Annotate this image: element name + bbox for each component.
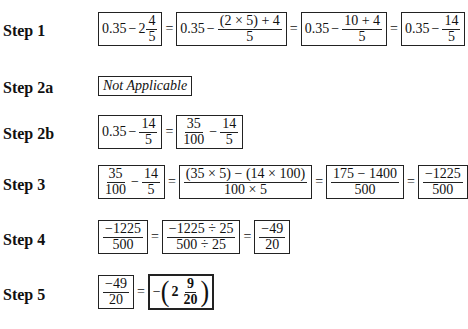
decimal-value: 0.35 — [102, 21, 127, 37]
step-1-row: 0.35 − 2 45 = 0.35 − (2 × 5) + 45 = 0.35… — [98, 12, 465, 46]
step-1-expression-3: 0.35 − 10 + 45 — [301, 12, 387, 46]
minus-sign: − — [207, 21, 215, 37]
minus-sign: − — [209, 124, 217, 140]
step-5-row: −4920 = − ( 2 920 ) — [98, 274, 214, 310]
fraction: 145 — [220, 117, 238, 147]
step-2b-row: 0.35 − 145 = 35100 − 145 — [98, 115, 243, 149]
equals-sign: = — [243, 229, 251, 245]
step-1-label: Step 1 — [3, 22, 45, 40]
equals-sign: = — [168, 174, 176, 190]
step-2a-row: Not Applicable — [98, 76, 192, 96]
minus-sign: − — [129, 124, 137, 140]
left-paren: ( — [161, 277, 170, 307]
equals-sign: = — [407, 174, 415, 190]
minus-sign: − — [131, 174, 139, 190]
step-1-expression-4: 0.35 − 145 — [401, 12, 465, 46]
fraction: 10 + 45 — [342, 14, 382, 44]
step-4-row: −1225500 = −1225 ÷ 25500 ÷ 25 = −4920 — [98, 220, 290, 254]
step-3-row: 35100 − 145 = (35 × 5) − (14 × 100)100 ×… — [98, 165, 468, 199]
step-2b-label: Step 2b — [3, 125, 54, 143]
fraction: (2 × 5) + 45 — [218, 14, 282, 44]
step-3-expression-4: −1225500 — [418, 165, 468, 199]
step-4-label: Step 4 — [3, 231, 45, 249]
fraction: −4920 — [103, 277, 129, 307]
fraction: −1225500 — [423, 167, 463, 197]
decimal-value: 0.35 — [305, 21, 330, 37]
equals-sign: = — [290, 21, 298, 37]
equals-sign: = — [165, 124, 173, 140]
step-1-expression-1: 0.35 − 2 45 — [98, 12, 162, 46]
step-2b-expression-2: 35100 − 145 — [176, 115, 243, 149]
step-5-expression-1: −4920 — [98, 275, 134, 309]
not-applicable-box: Not Applicable — [98, 76, 192, 96]
decimal-value: 0.35 — [405, 21, 430, 37]
step-2b-expression-1: 0.35 − 145 — [98, 115, 162, 149]
fraction: 175 − 1400500 — [331, 167, 399, 197]
fraction: 145 — [442, 14, 460, 44]
equals-sign: = — [137, 284, 145, 300]
equals-sign: = — [165, 21, 173, 37]
minus-sign: − — [331, 21, 339, 37]
decimal-value: 0.35 — [102, 124, 127, 140]
fraction: 45 — [146, 14, 157, 44]
step-3-expression-1: 35100 − 145 — [98, 165, 165, 199]
step-4-expression-2: −1225 ÷ 25500 ÷ 25 — [162, 220, 241, 254]
mixed-whole: 2 — [171, 284, 178, 300]
mixed-whole: 2 — [138, 21, 145, 37]
right-paren: ) — [200, 277, 209, 307]
step-2a-label: Step 2a — [3, 79, 53, 97]
fraction: −1225500 — [103, 222, 143, 252]
fraction: 920 — [181, 277, 199, 307]
fraction: 145 — [142, 167, 160, 197]
minus-sign: − — [431, 21, 439, 37]
equals-sign: = — [315, 174, 323, 190]
step-3-label: Step 3 — [3, 176, 45, 194]
step-1-expression-2: 0.35 − (2 × 5) + 45 — [176, 12, 287, 46]
step-3-expression-3: 175 − 1400500 — [326, 165, 404, 199]
step-4-expression-1: −1225500 — [98, 220, 148, 254]
decimal-value: 0.35 — [180, 21, 205, 37]
minus-sign: − — [153, 284, 161, 300]
step-3-expression-2: (35 × 5) − (14 × 100)100 × 5 — [179, 165, 312, 199]
step-4-expression-3: −4920 — [254, 220, 290, 254]
step-5-label: Step 5 — [3, 286, 45, 304]
equals-sign: = — [390, 21, 398, 37]
fraction: −4920 — [259, 222, 285, 252]
equals-sign: = — [151, 229, 159, 245]
fraction: 35100 — [181, 117, 206, 147]
final-answer-box: − ( 2 920 ) — [148, 274, 214, 310]
minus-sign: − — [129, 21, 137, 37]
fraction: −1225 ÷ 25500 ÷ 25 — [167, 222, 236, 252]
fraction: (35 × 5) − (14 × 100)100 × 5 — [184, 167, 307, 197]
fraction: 145 — [139, 117, 157, 147]
fraction: 35100 — [103, 167, 128, 197]
